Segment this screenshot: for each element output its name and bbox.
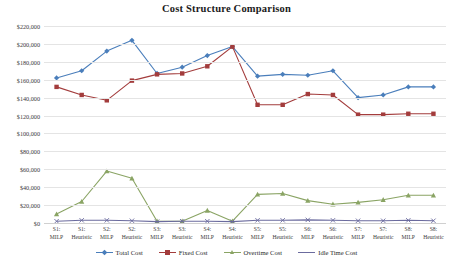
data-point-marker	[331, 93, 335, 97]
x-tick-method: Heuristic	[115, 234, 149, 242]
legend-item-overtime-cost[interactable]: Overtime Cost	[224, 249, 283, 256]
x-tick-method: Heuristic	[215, 234, 249, 242]
y-axis-tick-label: $80,000	[0, 148, 40, 155]
y-axis-tick-label: $220,000	[0, 23, 40, 30]
data-point-marker	[431, 84, 436, 89]
x-axis-tick-label: S1:Heuristic	[65, 226, 99, 241]
x-tick-method: Heuristic	[416, 234, 450, 242]
x-axis-tick-label: S7:Heuristic	[366, 226, 400, 241]
legend-item-fixed-cost[interactable]: Fixed Cost	[159, 249, 208, 256]
gridline	[44, 26, 446, 27]
series-line	[57, 220, 434, 222]
legend-swatch-icon	[224, 249, 241, 256]
x-axis-line	[44, 223, 446, 224]
legend-label: Overtime Cost	[243, 249, 283, 256]
series-line	[57, 40, 434, 97]
gridline	[44, 205, 446, 206]
x-tick-method: MILP	[391, 234, 425, 242]
x-axis-tick-label: S2:MILP	[90, 226, 124, 241]
chart-legend: Total CostFixed CostOvertime CostIdle Ti…	[0, 249, 453, 256]
x-tick-scenario: S1:	[78, 226, 85, 232]
x-tick-method: MILP	[190, 234, 224, 242]
x-tick-scenario: S2:	[103, 226, 110, 232]
data-point-marker	[280, 103, 284, 107]
x-tick-scenario: S2:	[128, 226, 135, 232]
y-axis-tick-label: $200,000	[0, 40, 40, 47]
gridline	[44, 187, 446, 188]
data-point-marker	[105, 98, 109, 102]
legend-item-idle-time-cost[interactable]: Idle Time Cost	[298, 249, 357, 256]
legend-label: Fixed Cost	[178, 249, 208, 256]
x-tick-scenario: S5:	[254, 226, 261, 232]
gridline	[44, 133, 446, 134]
x-tick-scenario: S7:	[354, 226, 361, 232]
x-axis-tick-label: S1:MILP	[40, 226, 74, 241]
data-point-marker	[155, 72, 159, 76]
data-point-marker	[305, 73, 310, 78]
x-axis-tick-label: S3:Heuristic	[165, 226, 199, 241]
data-point-marker	[255, 103, 259, 107]
y-axis-tick-label: $20,000	[0, 202, 40, 209]
data-point-marker	[205, 53, 210, 58]
x-axis-tick-label: S2:Heuristic	[115, 226, 149, 241]
data-point-marker	[180, 65, 185, 70]
x-axis-tick-label: S5:MILP	[241, 226, 275, 241]
gridline	[44, 80, 446, 81]
data-point-marker	[54, 85, 58, 89]
data-point-marker	[180, 71, 184, 75]
data-point-marker	[205, 208, 210, 213]
x-axis-tick-label: S8:Heuristic	[416, 226, 450, 241]
x-tick-scenario: S4:	[229, 226, 236, 232]
legend-item-total-cost[interactable]: Total Cost	[96, 249, 143, 256]
plot-area	[44, 26, 446, 223]
x-axis-tick-label: S3:MILP	[140, 226, 174, 241]
x-tick-method: Heuristic	[165, 234, 199, 242]
legend-swatch-icon	[159, 249, 176, 256]
x-tick-method: MILP	[90, 234, 124, 242]
x-tick-scenario: S7:	[379, 226, 386, 232]
legend-label: Idle Time Cost	[317, 249, 357, 256]
gridline	[44, 151, 446, 152]
x-tick-scenario: S6:	[304, 226, 311, 232]
x-tick-method: MILP	[291, 234, 325, 242]
x-tick-scenario: S8:	[405, 226, 412, 232]
cost-structure-chart: Cost Structure Comparison $220,000$200,0…	[0, 0, 453, 270]
x-tick-method: Heuristic	[65, 234, 99, 242]
x-axis-tick-label: S6:Heuristic	[316, 226, 350, 241]
gridline	[44, 169, 446, 170]
chart-title: Cost Structure Comparison	[0, 3, 453, 14]
data-point-marker	[406, 84, 411, 89]
x-tick-scenario: S3:	[153, 226, 160, 232]
series-line	[57, 171, 434, 221]
data-point-marker	[205, 64, 209, 68]
y-axis-tick-label: $60,000	[0, 166, 40, 173]
x-tick-scenario: S4:	[204, 226, 211, 232]
x-tick-method: MILP	[341, 234, 375, 242]
series-total-cost	[54, 38, 436, 101]
x-tick-method: Heuristic	[366, 234, 400, 242]
data-point-marker	[306, 92, 310, 96]
x-tick-scenario: S3:	[178, 226, 185, 232]
gridline	[44, 62, 446, 63]
x-tick-scenario: S8:	[430, 226, 437, 232]
legend-swatch-icon	[298, 249, 315, 256]
y-axis-tick-label: $0	[0, 220, 40, 227]
x-axis-tick-label: S4:MILP	[190, 226, 224, 241]
series-overtime-cost	[54, 168, 436, 223]
x-tick-scenario: S6:	[329, 226, 336, 232]
x-axis-tick-label: S8:MILP	[391, 226, 425, 241]
data-point-marker	[54, 211, 59, 216]
x-axis-tick-label: S5:Heuristic	[266, 226, 300, 241]
gridline	[44, 116, 446, 117]
x-tick-method: MILP	[241, 234, 275, 242]
x-axis-tick-label: S6:MILP	[291, 226, 325, 241]
x-axis-tick-label: S4:Heuristic	[215, 226, 249, 241]
data-point-marker	[230, 44, 234, 48]
x-tick-scenario: S1:	[53, 226, 60, 232]
gridline	[44, 98, 446, 99]
y-axis-tick-label: $180,000	[0, 58, 40, 65]
y-axis-tick-label: $140,000	[0, 94, 40, 101]
series-layer	[44, 26, 446, 223]
x-tick-method: MILP	[40, 234, 74, 242]
x-tick-method: Heuristic	[266, 234, 300, 242]
